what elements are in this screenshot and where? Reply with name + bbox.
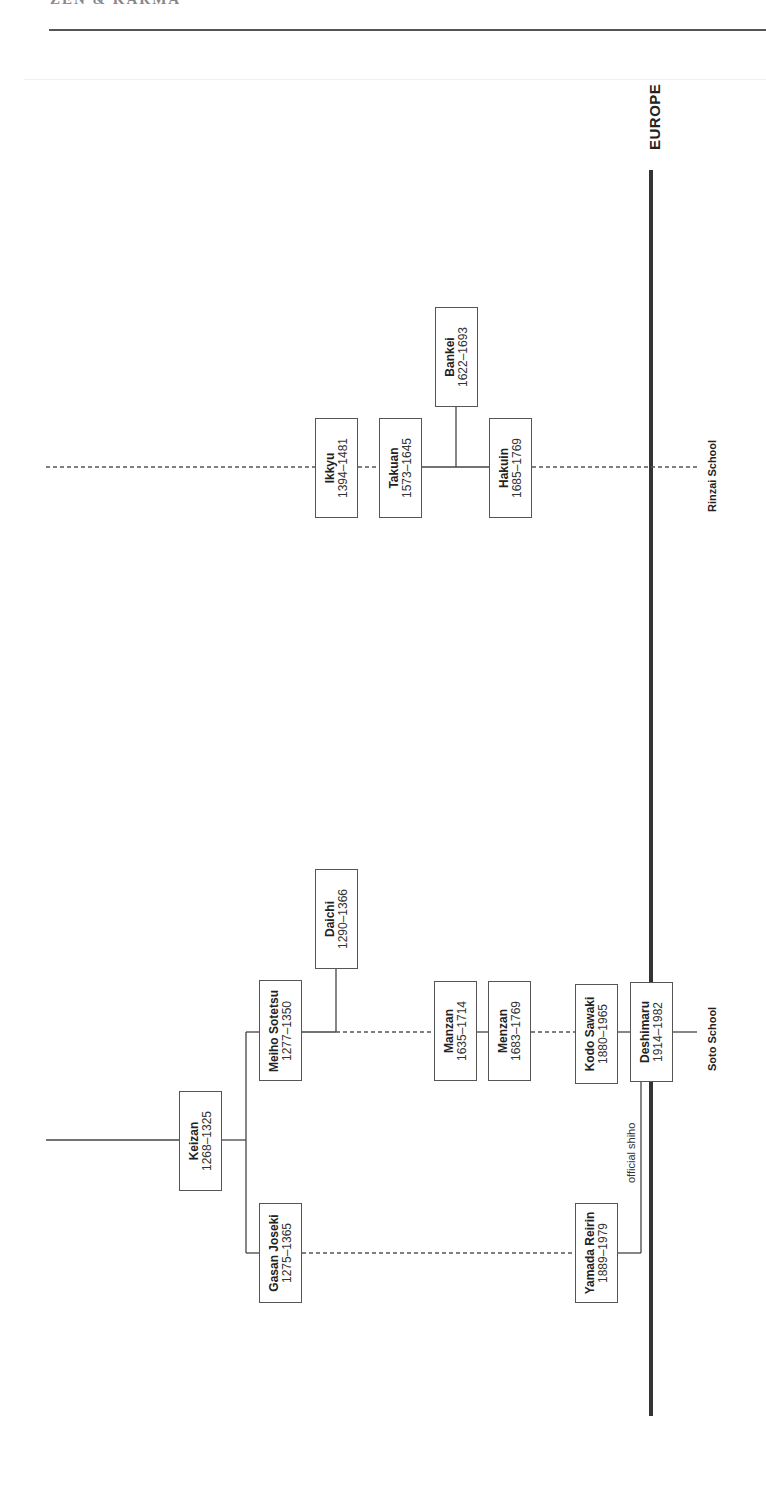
node-dates: 1914–1982 [652, 1001, 665, 1063]
europe-label: EUROPE [646, 84, 663, 150]
node-manzan: Manzan1635–1714 [434, 981, 477, 1081]
node-keizan: Keizan1268–1325 [179, 1091, 222, 1191]
node-dates: 1880–1965 [597, 997, 610, 1072]
node-dates: 1622–1693 [457, 327, 470, 387]
node-menzan: Menzan1683–1769 [488, 981, 531, 1081]
node-name: Bankei [444, 327, 457, 387]
node-name: Ikkyu [324, 438, 337, 498]
node-bankei: Bankei1622–1693 [435, 307, 478, 407]
lineage-connectors [0, 0, 766, 1492]
rinzai-school-label: Rinzai School [706, 440, 718, 512]
node-dates: 1573–1645 [401, 438, 414, 498]
node-meiho-sotetsu: Meiho Sotetsu1277–1350 [259, 980, 302, 1081]
node-name: Gasan Joseki [268, 1214, 281, 1291]
node-name: Yamada Reirin [584, 1212, 597, 1295]
node-yamada-reirin: Yamada Reirin1889–1979 [575, 1203, 618, 1303]
official-shiho-label: official shiho [625, 1123, 637, 1183]
node-name: Manzan [443, 1001, 456, 1061]
node-name: Keizan [188, 1111, 201, 1171]
node-kodo-sawaki: Kodo Sawaki1880–1965 [575, 984, 618, 1084]
node-name: Kodo Sawaki [584, 997, 597, 1072]
node-ikkyu: Ikkyu1394–1481 [315, 418, 358, 518]
node-name: Hakuin [498, 438, 511, 498]
node-dates: 1268–1325 [201, 1111, 214, 1171]
node-dates: 1635–1714 [456, 1001, 469, 1061]
node-dates: 1290–1366 [337, 889, 350, 949]
node-deshimaru: Deshimaru1914–1982 [630, 982, 673, 1082]
node-gasan-joseki: Gasan Joseki1275–1365 [259, 1203, 302, 1303]
node-name: Meiho Sotetsu [268, 989, 281, 1071]
node-name: Takuan [388, 438, 401, 498]
node-name: Deshimaru [639, 1001, 652, 1063]
node-dates: 1277–1350 [281, 989, 294, 1071]
node-dates: 1685–1769 [511, 438, 524, 498]
node-daichi: Daichi1290–1366 [315, 869, 358, 969]
node-dates: 1683–1769 [510, 1001, 523, 1061]
node-takuan: Takuan1573–1645 [379, 418, 422, 518]
node-dates: 1889–1979 [597, 1212, 610, 1295]
soto-school-label: Soto School [706, 1007, 718, 1071]
node-name: Menzan [497, 1001, 510, 1061]
node-dates: 1394–1481 [337, 438, 350, 498]
node-dates: 1275–1365 [281, 1214, 294, 1291]
node-hakuin: Hakuin1685–1769 [489, 418, 532, 518]
node-name: Daichi [324, 889, 337, 949]
